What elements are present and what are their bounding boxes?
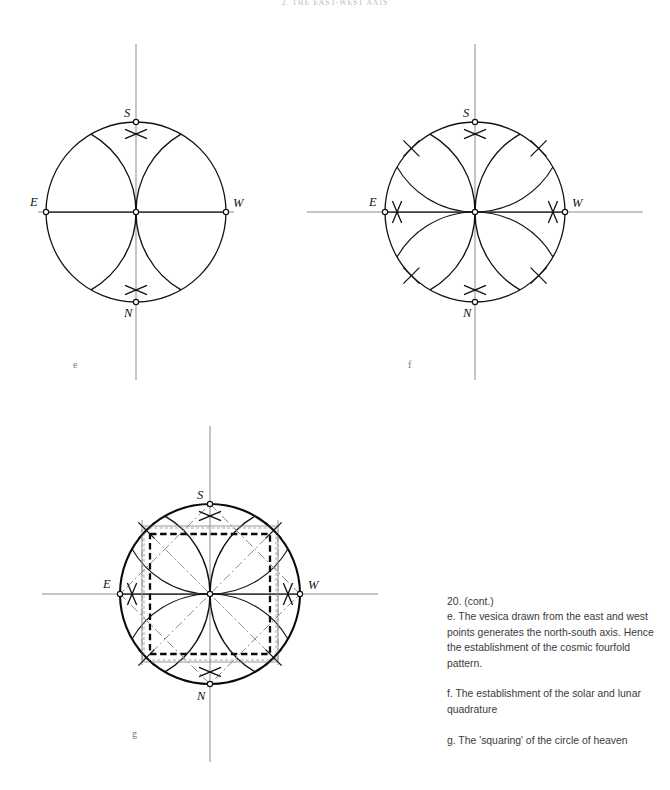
center-point bbox=[207, 591, 212, 596]
point-n bbox=[472, 299, 477, 304]
point-e bbox=[382, 209, 387, 214]
figure-e-canvas: SNEWe bbox=[0, 18, 300, 398]
figure-g-geometry: SNEWg bbox=[42, 426, 378, 762]
figure-g-canvas: SNEWg bbox=[10, 405, 440, 790]
point-n bbox=[207, 681, 212, 686]
label-e: E bbox=[368, 195, 377, 209]
label-n: N bbox=[462, 306, 472, 320]
caption-paragraph-e: e. The vesica drawn from the east and we… bbox=[447, 609, 662, 671]
label-n: N bbox=[196, 689, 206, 703]
panel-letter-e: e bbox=[73, 359, 78, 370]
label-e: E bbox=[29, 195, 38, 209]
point-e bbox=[43, 209, 48, 214]
petal-cross-1 bbox=[531, 140, 547, 156]
caption-paragraph-f: f. The establishment of the solar and lu… bbox=[447, 686, 662, 717]
figure-caption: 20. (cont.) e. The vesica drawn from the… bbox=[447, 594, 662, 748]
petal-cross-0 bbox=[138, 522, 154, 538]
label-w: W bbox=[233, 196, 245, 210]
point-w bbox=[297, 591, 302, 596]
panel-letter-g: g bbox=[132, 728, 137, 739]
center-point bbox=[133, 209, 138, 214]
point-s bbox=[472, 119, 477, 124]
point-w bbox=[223, 209, 228, 214]
petal-cross-3 bbox=[266, 650, 282, 666]
caption-spacer bbox=[447, 671, 662, 686]
point-n bbox=[133, 299, 138, 304]
label-s: S bbox=[124, 106, 131, 120]
point-w bbox=[562, 209, 567, 214]
label-w: W bbox=[572, 196, 584, 210]
figure-f: SNEWf bbox=[330, 18, 670, 398]
point-s bbox=[207, 501, 212, 506]
caption-paragraph-g: g. The 'squaring' of the circle of heave… bbox=[447, 733, 662, 748]
point-s bbox=[133, 119, 138, 124]
petal-cross-2 bbox=[403, 268, 419, 284]
label-s: S bbox=[197, 488, 204, 502]
figure-g: SNEWg bbox=[10, 405, 440, 790]
panel-letter-f: f bbox=[408, 359, 412, 370]
petal-cross-0 bbox=[403, 140, 419, 156]
center-point bbox=[472, 209, 477, 214]
caption-number: 20. (cont.) bbox=[447, 594, 662, 609]
label-s: S bbox=[463, 106, 470, 120]
figure-f-geometry: SNEWf bbox=[307, 44, 643, 380]
caption-spacer bbox=[447, 717, 662, 732]
figure-e-geometry: SNEWe bbox=[29, 44, 245, 380]
figure-e: SNEWe bbox=[0, 18, 300, 398]
petal-cross-1 bbox=[266, 522, 282, 538]
label-e: E bbox=[102, 577, 111, 591]
petal-cross-3 bbox=[531, 268, 547, 284]
figure-f-canvas: SNEWf bbox=[330, 18, 670, 398]
point-e bbox=[117, 591, 122, 596]
running-head: 2. THE EAST-WEST AXIS bbox=[0, 0, 670, 7]
label-w: W bbox=[308, 578, 320, 592]
label-n: N bbox=[123, 306, 133, 320]
petal-cross-2 bbox=[138, 650, 154, 666]
